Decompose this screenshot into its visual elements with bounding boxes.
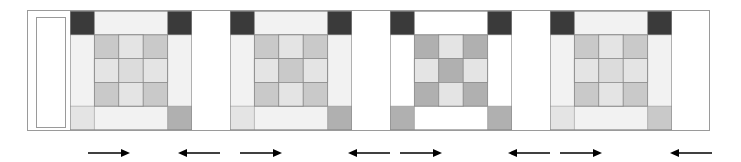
- nine-patch-cell-1-2: [279, 35, 303, 59]
- nine-patch-cell-1-2: [599, 35, 623, 59]
- nine-patch-cell-1-3: [623, 35, 647, 59]
- nine-patch-cell-1-1: [254, 35, 278, 59]
- nine-patch-cell-1-3: [303, 35, 327, 59]
- nine-patch-cell-2-3: [463, 59, 487, 83]
- corner-square-top-right: [488, 11, 512, 35]
- corner-square-bottom-left: [230, 106, 254, 130]
- nine-patch-cell-1-3: [143, 35, 167, 59]
- snowball-nine-patch-block-3: [390, 11, 512, 130]
- nine-patch-cell-3-1: [574, 82, 598, 106]
- nine-patch-cell-3-3: [143, 82, 167, 106]
- arrow-head-left-icon: [178, 149, 187, 157]
- nine-patch-cell-3-2: [119, 82, 143, 106]
- corner-square-top-right: [168, 11, 192, 35]
- nine-patch-cell-1-1: [414, 35, 438, 59]
- arrow-head-left-icon: [670, 149, 679, 157]
- press-arrow-right-2: [240, 146, 282, 160]
- corner-square-top-left: [230, 11, 254, 35]
- nine-patch-cell-3-1: [414, 82, 438, 106]
- arrow-head-left-icon: [348, 149, 357, 157]
- nine-patch-cell-2-1: [574, 59, 598, 83]
- nine-patch-cell-3-3: [303, 82, 327, 106]
- corner-square-top-left: [550, 11, 574, 35]
- nine-patch-cell-1-1: [94, 35, 118, 59]
- arrow-head-right-icon: [593, 149, 602, 157]
- arrow-head-left-icon: [508, 149, 517, 157]
- snowball-nine-patch-block-4: [550, 11, 672, 130]
- press-arrow-left-1: [178, 146, 220, 160]
- nine-patch-cell-2-1: [94, 59, 118, 83]
- nine-patch-cell-1-2: [439, 35, 463, 59]
- press-arrow-left-4: [670, 146, 712, 160]
- quilt-diagram-canvas: [0, 0, 741, 162]
- corner-square-bottom-right: [488, 106, 512, 130]
- nine-patch-cell-3-3: [623, 82, 647, 106]
- nine-patch-cell-1-2: [119, 35, 143, 59]
- corner-square-bottom-left: [70, 106, 94, 130]
- nine-patch-cell-2-3: [143, 59, 167, 83]
- nine-patch-cell-2-2: [119, 59, 143, 83]
- corner-square-bottom-right: [648, 106, 672, 130]
- nine-patch-cell-3-2: [439, 82, 463, 106]
- corner-square-bottom-right: [168, 106, 192, 130]
- nine-patch-cell-3-2: [599, 82, 623, 106]
- nine-patch-cell-3-3: [463, 82, 487, 106]
- snowball-nine-patch-block-2: [230, 11, 352, 130]
- press-arrow-left-3: [508, 146, 550, 160]
- nine-patch-cell-1-1: [574, 35, 598, 59]
- corner-square-bottom-left: [390, 106, 414, 130]
- nine-patch-cell-2-3: [623, 59, 647, 83]
- nine-patch-cell-2-1: [254, 59, 278, 83]
- arrow-head-right-icon: [433, 149, 442, 157]
- nine-patch-cell-2-3: [303, 59, 327, 83]
- snowball-nine-patch-block-1: [70, 11, 192, 130]
- nine-patch-cell-3-2: [279, 82, 303, 106]
- nine-patch-cell-2-2: [599, 59, 623, 83]
- sashing-strip-left: [36, 17, 66, 128]
- nine-patch-cell-3-1: [254, 82, 278, 106]
- arrow-head-right-icon: [121, 149, 130, 157]
- nine-patch-cell-1-3: [463, 35, 487, 59]
- press-arrow-right-3: [400, 146, 442, 160]
- nine-patch-cell-2-2: [439, 59, 463, 83]
- corner-square-top-right: [648, 11, 672, 35]
- nine-patch-cell-2-1: [414, 59, 438, 83]
- press-arrow-left-2: [348, 146, 390, 160]
- corner-square-top-left: [70, 11, 94, 35]
- corner-square-top-right: [328, 11, 352, 35]
- press-arrow-right-1: [88, 146, 130, 160]
- nine-patch-cell-3-1: [94, 82, 118, 106]
- arrow-head-right-icon: [273, 149, 282, 157]
- corner-square-bottom-left: [550, 106, 574, 130]
- corner-square-top-left: [390, 11, 414, 35]
- corner-square-bottom-right: [328, 106, 352, 130]
- nine-patch-cell-2-2: [279, 59, 303, 83]
- press-arrow-right-4: [560, 146, 602, 160]
